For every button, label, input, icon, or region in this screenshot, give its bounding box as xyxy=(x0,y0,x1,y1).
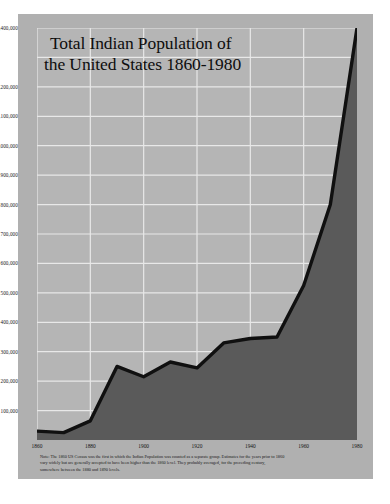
x-tick-label: 1880 xyxy=(85,443,96,449)
footnote: Note: The 1860 US Census was the first i… xyxy=(40,454,370,473)
y-tick-label: 900,000 xyxy=(0,172,18,178)
x-tick-label: 1920 xyxy=(192,443,203,449)
y-tick-label: 100,000 xyxy=(0,408,18,414)
footnote-line-3: somewhere between the 1880 and 1890 leve… xyxy=(40,467,370,473)
chart-title-line-1: Total Indian Population of xyxy=(50,33,310,54)
x-tick-label: 1900 xyxy=(138,443,149,449)
population-area-series xyxy=(37,28,357,440)
y-tick-label: 1,000,000 xyxy=(0,143,18,149)
chart-page: 100,000200,000300,000400,000500,000600,0… xyxy=(0,0,390,504)
x-tick-label: 1860 xyxy=(32,443,43,449)
y-tick-label: 1,100,000 xyxy=(0,113,18,119)
y-tick-label: 300,000 xyxy=(0,349,18,355)
y-tick-label: 1,200,000 xyxy=(0,84,18,90)
y-tick-label: 200,000 xyxy=(0,378,18,384)
y-tick-label: 500,000 xyxy=(0,290,18,296)
y-tick-label: 600,000 xyxy=(0,260,18,266)
y-tick-label: 400,000 xyxy=(0,319,18,325)
x-tick-label: 1980 xyxy=(352,443,363,449)
plot-area xyxy=(37,28,357,440)
x-tick-label: 1960 xyxy=(298,443,309,449)
x-axis: 1860188019001920194019601980 xyxy=(37,443,357,453)
y-tick-label: 1,400,000 xyxy=(0,25,18,31)
chart-title: Total Indian Population of the United St… xyxy=(50,33,310,75)
chart-title-line-2: the United States 1860-1980 xyxy=(44,54,310,75)
x-tick-label: 1940 xyxy=(245,443,256,449)
y-tick-label: 800,000 xyxy=(0,202,18,208)
y-tick-label: 700,000 xyxy=(0,231,18,237)
